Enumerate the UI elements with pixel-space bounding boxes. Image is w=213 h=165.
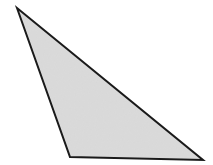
figure-svg-root: [0, 0, 213, 165]
geometry-figure-canvas: [0, 0, 213, 165]
